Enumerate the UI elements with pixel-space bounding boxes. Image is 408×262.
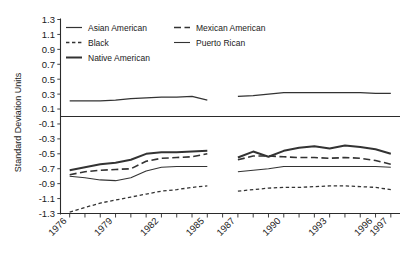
x-axis-tick-label: 1985 xyxy=(183,215,206,238)
legend-label-black: Black xyxy=(88,38,110,48)
series-line-puerto-rican xyxy=(238,166,391,171)
y-axis-tick-label: -0.3 xyxy=(39,133,55,144)
y-axis-title: Standard Deviation Units xyxy=(13,72,23,172)
y-axis-tick-label: 1.3 xyxy=(42,14,55,25)
legend-label-native-american: Native American xyxy=(88,53,150,63)
y-axis-tick-label: -0.5 xyxy=(39,148,55,159)
y-axis-tick-label: -0.9 xyxy=(39,178,55,189)
chart-container: 1.31.10.90.70.50.30.1-0.1-0.3-0.5-0.7-0.… xyxy=(0,0,408,262)
y-axis-tick-label: 0.7 xyxy=(42,59,55,70)
legend-label-puerto-rican: Puerto Rican xyxy=(196,38,245,48)
series-line-native-american xyxy=(70,151,208,170)
series-line-black xyxy=(238,186,391,191)
y-axis-tick-label: 0.5 xyxy=(42,74,55,85)
series-line-asian-american xyxy=(238,93,391,97)
y-axis-tick-label: 1.1 xyxy=(42,29,55,40)
x-axis-tick-label: 1990 xyxy=(260,215,283,238)
y-axis-tick-label: -0.7 xyxy=(39,163,55,174)
x-axis-tick-label: 1993 xyxy=(306,215,329,238)
y-axis-tick-label: -1.3 xyxy=(39,208,55,219)
y-axis-tick-label: 0.1 xyxy=(42,103,55,114)
series-line-asian-american xyxy=(70,96,208,100)
legend-label-mexican-american: Mexican American xyxy=(196,23,266,33)
x-axis-tick-label: 1987 xyxy=(214,215,237,238)
legend-label-asian-american: Asian American xyxy=(88,23,147,33)
x-axis-tick-label: 1982 xyxy=(138,215,161,238)
series-line-puerto-rican xyxy=(70,166,208,180)
series-line-mexican-american xyxy=(238,156,391,164)
y-axis-tick-label: 0.9 xyxy=(42,44,55,55)
y-axis-tick-label: 0.3 xyxy=(42,89,55,100)
y-axis-tick-label: -1.1 xyxy=(39,193,55,204)
x-axis-tick-label: 1979 xyxy=(92,215,115,238)
x-axis-tick-label: 1997 xyxy=(367,215,390,238)
y-axis-tick-label: -0.1 xyxy=(39,118,55,129)
series-line-black xyxy=(70,186,208,212)
line-chart: 1.31.10.90.70.50.30.1-0.1-0.3-0.5-0.7-0.… xyxy=(0,0,408,262)
